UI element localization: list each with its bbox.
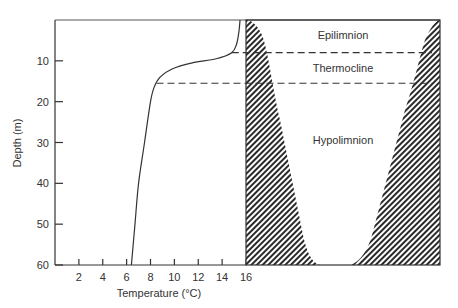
x-tick-label: 4 bbox=[100, 271, 106, 283]
x-axis-title: Temperature (°C) bbox=[117, 287, 201, 299]
x-tick-label: 14 bbox=[216, 271, 228, 283]
y-tick-label: 60 bbox=[37, 259, 49, 271]
y-tick-label: 30 bbox=[37, 137, 49, 149]
temperature-profile-line bbox=[131, 20, 240, 265]
x-tick-label: 8 bbox=[147, 271, 153, 283]
layer-boundaries bbox=[156, 53, 432, 84]
y-tick-label: 40 bbox=[37, 177, 49, 189]
x-ticks: 246810121416 bbox=[76, 259, 252, 283]
x-tick-label: 12 bbox=[192, 271, 204, 283]
y-axis-title: Depth (m) bbox=[11, 119, 23, 168]
lake-stratification-figure: 102030405060 246810121416 Depth (m) Temp… bbox=[0, 0, 458, 308]
zone-label-thermocline: Thermocline bbox=[313, 62, 374, 74]
x-tick-label: 16 bbox=[240, 271, 252, 283]
y-tick-label: 20 bbox=[37, 96, 49, 108]
x-tick-label: 2 bbox=[76, 271, 82, 283]
y-ticks: 102030405060 bbox=[37, 55, 63, 271]
y-tick-label: 50 bbox=[37, 218, 49, 230]
lake-basin-left-bank bbox=[246, 20, 320, 265]
zone-label-epilimnion: Epilimnion bbox=[318, 29, 369, 41]
x-tick-label: 6 bbox=[124, 271, 130, 283]
zone-label-hypolimnion: Hypolimnion bbox=[313, 134, 374, 146]
y-tick-label: 10 bbox=[37, 55, 49, 67]
x-tick-label: 10 bbox=[168, 271, 180, 283]
